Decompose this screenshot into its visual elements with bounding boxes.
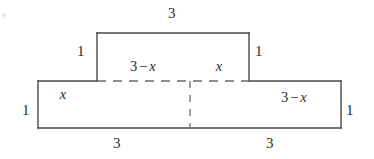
label-upper-inner-left-variable: x xyxy=(149,58,156,74)
label-upper-left-height: 1 xyxy=(77,44,85,59)
label-lower-inner-left: x xyxy=(60,87,67,102)
label-bottom-right-width: 3 xyxy=(266,136,274,151)
figure-line-art xyxy=(0,0,374,159)
cropped-margin-glyph: e xyxy=(2,8,7,20)
label-upper-inner-left: 3−x xyxy=(130,59,156,74)
label-upper-inner-right-variable: x xyxy=(216,58,223,74)
label-lower-left-height: 1 xyxy=(22,103,30,118)
label-lower-inner-right-number: 3 xyxy=(281,89,289,105)
label-lower-inner-right: 3−x xyxy=(281,90,307,105)
label-lower-inner-left-variable: x xyxy=(60,86,67,102)
geometry-figure: e 3 1 1 3−x x x 3−x 1 1 3 3 xyxy=(0,0,374,159)
label-bottom-left-width: 3 xyxy=(113,136,121,151)
label-lower-inner-right-variable: x xyxy=(300,89,307,105)
label-lower-inner-right-operator: − xyxy=(289,89,300,105)
label-upper-right-height: 1 xyxy=(255,44,263,59)
label-upper-inner-left-operator: − xyxy=(138,58,149,74)
label-upper-inner-right: x xyxy=(216,59,223,74)
label-lower-right-height: 1 xyxy=(346,103,354,118)
label-upper-inner-left-number: 3 xyxy=(130,58,138,74)
label-top-width: 3 xyxy=(168,6,176,21)
